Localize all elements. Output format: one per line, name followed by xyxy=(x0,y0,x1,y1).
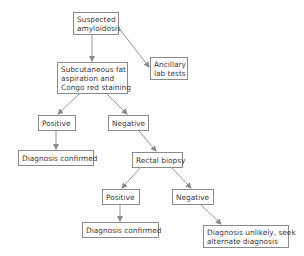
arrow-aspiration-to-negative xyxy=(107,94,127,114)
arrow-aspiration-to-positive xyxy=(58,94,79,114)
node-text: Subcutaneous fat xyxy=(61,65,124,74)
node-text: aspiration and xyxy=(61,74,124,83)
node-text: Negative xyxy=(176,193,210,202)
node-negative-1: Negative xyxy=(108,115,149,131)
arrow-negative-to-rectal xyxy=(139,131,156,151)
node-text: Rectal biopsy xyxy=(136,156,179,165)
node-suspected-amyloidosis: Suspected amyloidosis xyxy=(73,12,119,35)
node-text: Congo red staining xyxy=(61,83,124,92)
node-text: Ancillary xyxy=(154,60,184,69)
node-text: Suspected xyxy=(77,15,115,24)
node-negative-2: Negative xyxy=(172,189,214,205)
arrow-negative2-to-unlikely xyxy=(200,204,221,224)
node-text: Diagnosis unlikely, seek xyxy=(207,228,285,237)
node-text: alternate diagnosis xyxy=(207,237,285,246)
arrow-suspected-to-ancillary xyxy=(118,27,149,67)
node-text: Positive xyxy=(106,193,136,202)
arrow-rectal-to-positive xyxy=(122,167,141,188)
node-text: lab tests xyxy=(154,69,184,78)
node-ancillary-lab-tests: Ancillary lab tests xyxy=(150,57,188,80)
node-positive-1: Positive xyxy=(38,115,76,131)
node-positive-2: Positive xyxy=(102,189,140,205)
node-fat-aspiration-congo-red: Subcutaneous fat aspiration and Congo re… xyxy=(57,62,128,94)
node-text: Diagnosis confirmed xyxy=(86,226,155,235)
node-text: Positive xyxy=(42,119,72,128)
node-text: Negative xyxy=(112,119,145,128)
node-text: Diagnosis confirmed xyxy=(22,154,90,163)
node-text: amyloidosis xyxy=(77,24,115,33)
node-diagnosis-confirmed-1: Diagnosis confirmed xyxy=(18,150,94,166)
node-diagnosis-confirmed-2: Diagnosis confirmed xyxy=(82,222,159,238)
node-rectal-biopsy: Rectal biopsy xyxy=(132,152,183,168)
arrow-rectal-to-negative xyxy=(171,167,191,188)
node-diagnosis-unlikely: Diagnosis unlikely, seek alternate diagn… xyxy=(203,225,289,248)
